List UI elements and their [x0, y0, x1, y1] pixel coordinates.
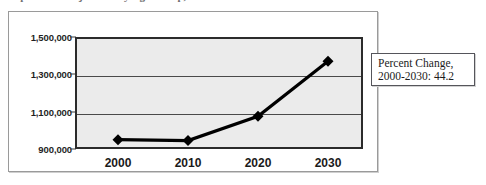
cropped-title-remnant: Population Projections by Age Group, 200…	[8, 0, 308, 6]
callout-line-1: Percent Change,	[378, 57, 469, 70]
cropped-title-text: Population Projections by Age Group, 200…	[8, 0, 308, 2]
percent-change-callout: Percent Change, 2000-2030: 44.2	[371, 53, 475, 86]
x-axis-tick-label: 2010	[175, 156, 202, 170]
x-axis-tick-label: 2030	[315, 156, 342, 170]
y-axis-tick-label: 900,000	[38, 144, 72, 155]
data-point-marker	[183, 135, 194, 146]
line-chart: 1,500,000 1,300,000 1,100,000 900,000	[8, 11, 378, 172]
y-axis-tick-label: 1,100,000	[31, 106, 72, 117]
y-axis-tick-label: 1,300,000	[31, 69, 72, 80]
data-point-marker	[113, 134, 124, 145]
y-axis-tick-label: 1,500,000	[31, 32, 72, 43]
x-axis-tick-label: 2000	[105, 156, 132, 170]
data-series-population	[75, 37, 363, 149]
series-markers	[113, 56, 334, 146]
series-line	[118, 61, 328, 140]
figure-container: Population Projections by Age Group, 200…	[0, 0, 486, 185]
x-axis-tick-label: 2020	[245, 156, 272, 170]
y-axis-labels: 1,500,000 1,300,000 1,100,000 900,000	[16, 11, 72, 172]
callout-line-2: 2000-2030: 44.2	[378, 70, 469, 83]
x-axis-labels: 2000 2010 2020 2030	[8, 156, 378, 172]
